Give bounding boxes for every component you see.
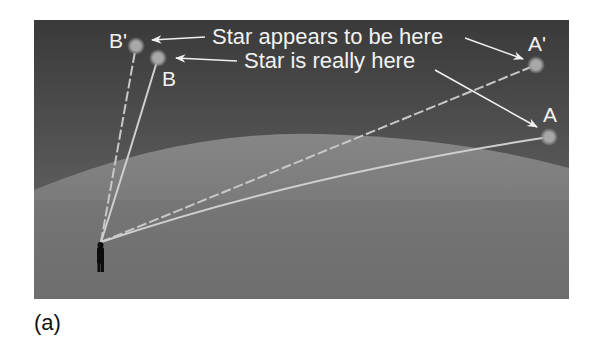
star-a-prime-icon xyxy=(527,56,545,74)
callout-real-position: Star is really here xyxy=(244,50,415,72)
figure-caption: (a) xyxy=(34,310,61,336)
star-label-b: B xyxy=(162,68,176,89)
star-label-a: A xyxy=(543,104,557,125)
observer-person-icon xyxy=(97,242,104,272)
star-label-b-prime: B' xyxy=(109,30,127,51)
star-b-icon xyxy=(149,49,167,67)
star-b-prime-icon xyxy=(127,37,145,55)
callout-apparent-position: Star appears to be here xyxy=(212,26,443,48)
refraction-diagram: Star appears to be here Star is really h… xyxy=(0,0,596,364)
star-label-a-prime: A' xyxy=(528,33,546,54)
star-a-icon xyxy=(540,128,558,146)
